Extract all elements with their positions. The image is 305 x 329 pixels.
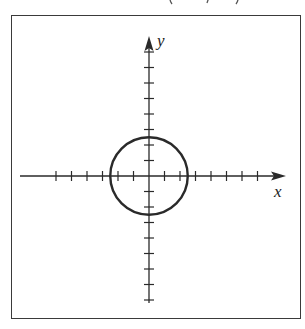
x-axis-label: x [274,183,282,200]
y-axis-label: y [157,32,165,49]
coordinate-plane [0,0,305,329]
